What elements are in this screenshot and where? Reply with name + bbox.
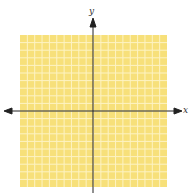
x-axis-right-arrow-icon: [174, 108, 182, 114]
x-axis-left-arrow-icon: [4, 108, 12, 114]
x-axis-label: x: [183, 106, 188, 115]
coordinate-plane: [0, 0, 189, 193]
y-axis-up-arrow-icon: [90, 18, 96, 27]
y-axis-label: y: [89, 7, 94, 16]
